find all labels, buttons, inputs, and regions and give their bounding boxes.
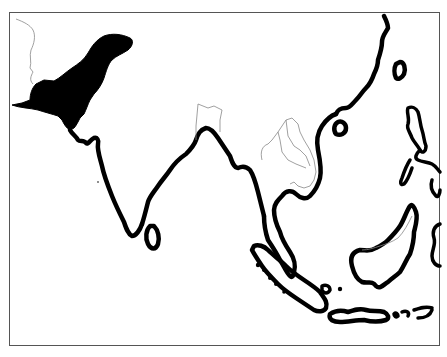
philippines-luzon [407, 107, 426, 152]
islet [274, 282, 278, 286]
mindanao [431, 180, 440, 197]
range-map [0, 0, 447, 357]
islet [97, 181, 99, 183]
flores [414, 307, 432, 318]
coastline-india-west [70, 130, 142, 236]
java [330, 309, 389, 322]
riau-islands [322, 285, 330, 293]
sumbawa [402, 311, 409, 316]
islet [256, 263, 260, 267]
palawan [401, 160, 412, 185]
islet [262, 268, 266, 272]
sri-lanka [146, 226, 159, 249]
coastline-malay-east [274, 114, 336, 272]
borneo [351, 205, 417, 287]
species-range-shaded [12, 34, 132, 130]
islet [282, 290, 286, 294]
islet [261, 207, 263, 209]
islet [338, 287, 342, 291]
bali-lombok [394, 313, 398, 317]
western-border [16, 19, 34, 84]
sulawesi [432, 224, 440, 266]
islet [268, 276, 272, 280]
taiwan [395, 62, 405, 79]
philippines-visayas [416, 150, 440, 172]
coastline-china-south [336, 16, 388, 114]
coastline-india-east [142, 128, 264, 224]
indochina-borders [261, 118, 316, 188]
hainan [334, 121, 346, 134]
